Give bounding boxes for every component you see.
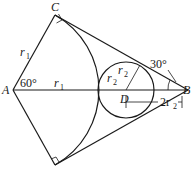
label-A: A	[1, 83, 10, 97]
label-C: C	[51, 0, 60, 14]
svg-text:2: 2	[124, 70, 128, 79]
radius-r2	[126, 65, 140, 90]
svg-text:1: 1	[26, 52, 30, 61]
right-angle-C	[57, 14, 63, 23]
label-angle-A: 60°	[20, 76, 37, 90]
label-dim-2r2: 2r	[160, 95, 170, 109]
angle-arc-B	[168, 80, 170, 90]
label-r2-left: r	[107, 71, 112, 85]
geometry-diagram: C A B D 60° 30° r 1 r 1 r 2 r 2 2r 2	[0, 0, 195, 172]
angle-leader-B	[168, 70, 176, 82]
segment-A-bottom	[13, 90, 55, 165]
label-angle-B: 30°	[150, 57, 167, 71]
label-r1-side: r	[20, 45, 25, 59]
label-D: D	[119, 92, 129, 106]
svg-text:1: 1	[60, 83, 64, 92]
label-B: B	[183, 83, 191, 97]
svg-text:2: 2	[113, 78, 117, 87]
label-r2-right: r	[118, 63, 123, 77]
tangent-CB	[55, 15, 188, 90]
label-r1-axis: r	[54, 76, 59, 90]
svg-text:2: 2	[173, 102, 177, 111]
